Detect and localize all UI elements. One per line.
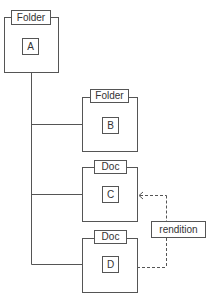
rendition-edge-label: rendition (151, 221, 206, 238)
doc-d-type-label: Doc (94, 230, 127, 244)
doc-c-type-label: Doc (94, 160, 127, 174)
folder-a-name: A (22, 38, 39, 55)
doc-c-name: C (102, 186, 119, 203)
folder-b-name: B (102, 117, 119, 134)
folder-b-type-label: Folder (90, 89, 129, 103)
doc-d-name: D (102, 256, 119, 273)
folder-a-type-label: Folder (11, 10, 51, 25)
